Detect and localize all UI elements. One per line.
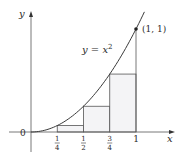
tick-numerator: 1 bbox=[55, 135, 59, 143]
riemann-rectangle bbox=[57, 126, 83, 132]
riemann-rectangle bbox=[84, 106, 110, 132]
tick-denominator: 4 bbox=[108, 144, 113, 152]
rectangles bbox=[57, 74, 136, 132]
y-axis-label: y bbox=[18, 8, 25, 19]
x-axis-label: x bbox=[167, 133, 173, 144]
curve-label: y = x2 bbox=[81, 43, 113, 55]
tick-numerator: 3 bbox=[108, 135, 112, 143]
tick-denominator: 2 bbox=[81, 144, 85, 152]
tick-labels: 1412341 bbox=[55, 134, 139, 152]
y-axis-arrow-icon bbox=[29, 11, 33, 17]
riemann-sum-diagram: y x 0 (1, 1) y = x2 1412341 bbox=[0, 0, 183, 160]
tick-label: 1 bbox=[133, 134, 139, 144]
riemann-rectangle bbox=[110, 74, 136, 132]
point-label: (1, 1) bbox=[142, 24, 166, 34]
tick-numerator: 1 bbox=[81, 135, 85, 143]
point-1-1 bbox=[134, 27, 138, 31]
origin-label: 0 bbox=[20, 128, 26, 138]
tick-denominator: 4 bbox=[55, 144, 60, 152]
